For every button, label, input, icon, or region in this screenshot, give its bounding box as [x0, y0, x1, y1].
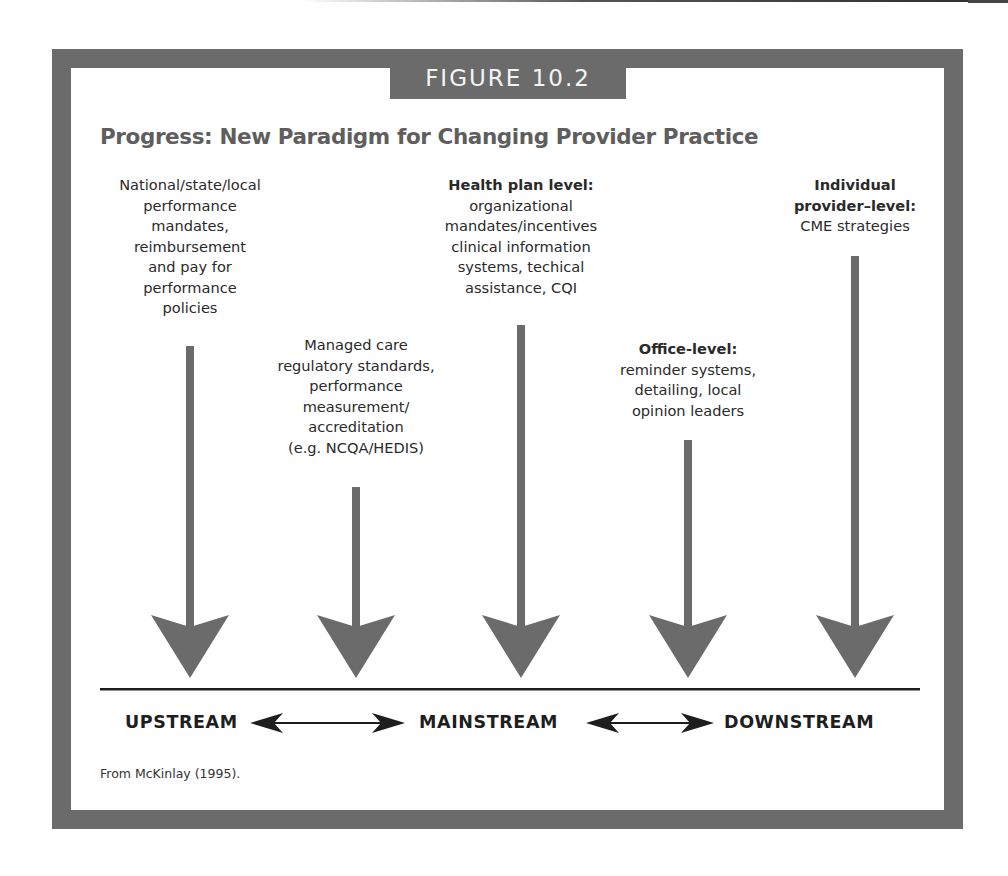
diagram-arrows — [0, 0, 1008, 876]
source-citation: From McKinlay (1995). — [100, 766, 240, 781]
label-downstream: DOWNSTREAM — [724, 712, 874, 732]
label-upstream: UPSTREAM — [125, 712, 238, 732]
label-mainstream: MAINSTREAM — [419, 712, 558, 732]
down-arrow-office — [649, 440, 727, 678]
down-arrow-managed-care — [317, 487, 395, 678]
baseline-rule — [100, 688, 920, 691]
down-arrow-health-plan — [482, 325, 560, 678]
down-arrow-national — [151, 346, 229, 678]
double-arrow-up-main — [250, 713, 405, 733]
double-arrow-main-down — [586, 713, 714, 733]
down-arrow-individual — [816, 256, 894, 678]
